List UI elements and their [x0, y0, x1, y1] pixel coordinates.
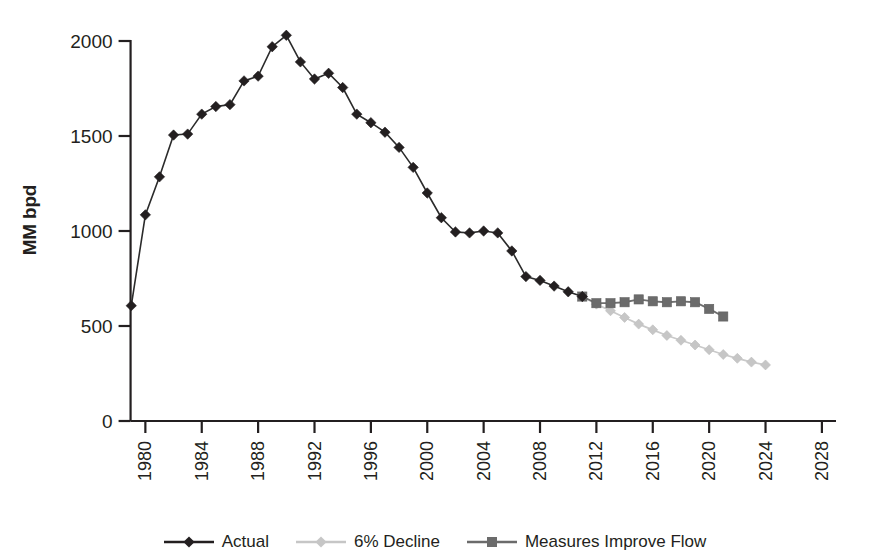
data-point: [634, 319, 644, 329]
series-actual: [126, 30, 587, 311]
y-tick-label: 500: [81, 316, 113, 337]
legend-item-label: Actual: [222, 532, 269, 552]
x-tick-label: 2012: [586, 441, 606, 481]
x-tick-label: 1988: [248, 441, 268, 481]
data-point: [352, 109, 362, 119]
legend-diamond-marker-icon: [163, 533, 215, 551]
data-point: [563, 287, 573, 297]
data-point: [648, 325, 658, 335]
data-point: [592, 299, 601, 308]
legend-item[interactable]: Actual: [163, 532, 269, 552]
data-point: [761, 360, 771, 370]
x-tick-label: 1996: [361, 441, 381, 481]
data-point: [422, 188, 432, 198]
legend-item[interactable]: Measures Improve Flow: [466, 532, 706, 552]
series-line: [131, 35, 582, 305]
data-point: [620, 312, 630, 322]
data-point: [211, 101, 221, 111]
x-tick-label: 1992: [305, 441, 325, 481]
data-point: [182, 129, 192, 139]
data-point: [705, 304, 714, 313]
data-point: [606, 299, 615, 308]
data-point: [126, 300, 136, 310]
data-point: [168, 130, 178, 140]
data-point: [719, 312, 728, 321]
data-point: [620, 298, 629, 307]
data-point: [140, 210, 150, 220]
data-point: [704, 345, 714, 355]
data-point: [648, 297, 657, 306]
y-tick-label: 1500: [70, 126, 112, 147]
x-tick-label: 2016: [643, 441, 663, 481]
legend-item-label: Measures Improve Flow: [525, 532, 706, 552]
series-measures-improve-flow: [578, 292, 728, 321]
data-point: [662, 298, 671, 307]
chart-legend: Actual6% DeclineMeasures Improve Flow: [0, 524, 869, 560]
data-point: [253, 71, 263, 81]
data-point: [408, 162, 418, 172]
x-tick-label: 2008: [530, 441, 550, 481]
x-tick-label: 1984: [192, 441, 212, 481]
legend-diamond-marker-icon: [295, 533, 347, 551]
data-point: [225, 99, 235, 109]
data-point: [676, 335, 686, 345]
x-tick-label: 2020: [699, 441, 719, 481]
data-point: [535, 275, 545, 285]
x-tick-label: 2000: [417, 441, 437, 481]
data-point: [676, 297, 685, 306]
data-point: [154, 172, 164, 182]
legend-square-marker-icon: [466, 533, 518, 551]
axes-group: 0500100015002000198019841988199219962000…: [70, 31, 836, 481]
plot-area: 0500100015002000198019841988199219962000…: [0, 0, 869, 524]
x-tick-label: 1980: [135, 441, 155, 481]
data-point: [549, 281, 559, 291]
y-tick-label: 1000: [70, 221, 112, 242]
chart-container: MM bpd 050010001500200019801984198819921…: [0, 0, 869, 560]
x-tick-label: 2004: [474, 441, 494, 481]
y-tick-label: 0: [102, 411, 113, 432]
data-point: [366, 118, 376, 128]
data-point: [521, 271, 531, 281]
data-point: [718, 350, 728, 360]
data-point: [746, 357, 756, 367]
legend-item[interactable]: 6% Decline: [295, 532, 440, 552]
data-point: [197, 109, 207, 119]
data-point: [464, 228, 474, 238]
x-tick-label: 2028: [812, 441, 832, 481]
data-point: [478, 226, 488, 236]
data-point: [662, 331, 672, 341]
data-point: [634, 295, 643, 304]
data-point: [690, 340, 700, 350]
legend-item-label: 6% Decline: [354, 532, 440, 552]
data-point: [690, 298, 699, 307]
x-tick-label: 2024: [756, 441, 776, 481]
data-point: [732, 353, 742, 363]
y-tick-label: 2000: [70, 31, 112, 52]
data-point: [239, 76, 249, 86]
